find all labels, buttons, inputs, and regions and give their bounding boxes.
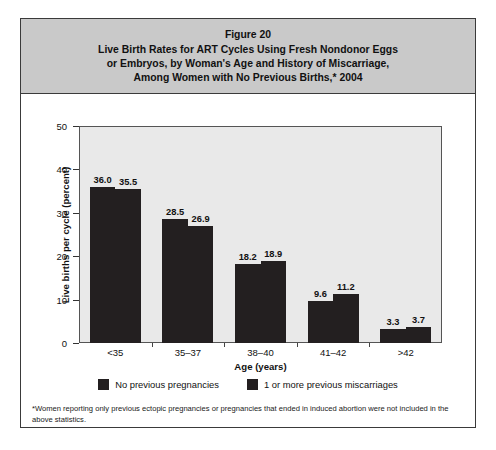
legend-label-0: No previous pregnancies	[115, 379, 219, 390]
bar-1-1: 26.9	[188, 126, 214, 343]
x-tick-label-3: 41–42	[293, 347, 373, 358]
bar-rect-0-1	[115, 189, 141, 343]
legend-label-1: 1 or more previous miscarriages	[264, 379, 398, 390]
bar-value-label-3-0: 9.6	[308, 289, 334, 299]
x-tick-label-1: 35–37	[148, 347, 228, 358]
y-axis: 01020304050	[21, 94, 79, 427]
bar-value-label-2-1: 18.9	[261, 249, 287, 259]
y-tick-label-50: 50	[45, 121, 67, 132]
bar-group-3: 9.611.2	[308, 126, 359, 343]
bar-value-label-1-1: 26.9	[188, 214, 214, 224]
bar-4-1: 3.7	[406, 126, 432, 343]
y-tick-label-40: 40	[45, 164, 67, 175]
figure-title-line-2: Live Birth Rates for ART Cycles Using Fr…	[98, 43, 398, 57]
bar-rect-4-1	[406, 327, 432, 343]
y-tick-label-10: 10	[45, 294, 67, 305]
chart-legend: No previous pregnancies 1 or more previo…	[21, 379, 475, 390]
bar-rect-2-1	[261, 261, 287, 343]
legend-item-1: 1 or more previous miscarriages	[247, 379, 398, 390]
bar-value-label-0-1: 35.5	[115, 177, 141, 187]
figure-title-band: Figure 20 Live Birth Rates for ART Cycle…	[21, 19, 475, 94]
bar-rect-1-0	[162, 219, 188, 343]
x-tick-label-2: 38–40	[221, 347, 301, 358]
bar-group-2: 18.218.9	[235, 126, 286, 343]
bar-rect-3-1	[333, 294, 359, 343]
bar-0-0: 36.0	[90, 126, 116, 343]
bar-rect-4-0	[380, 329, 406, 343]
bar-rect-3-0	[308, 301, 334, 343]
bar-rect-0-0	[90, 187, 116, 343]
y-tick-label-0: 0	[45, 338, 67, 349]
x-tick-label-4: >42	[366, 347, 446, 358]
figure-title-line-3: or Embryos, by Woman's Age and History o…	[107, 57, 390, 71]
figure-title-line-1: Figure 20	[225, 28, 271, 42]
bar-rect-2-0	[235, 264, 261, 343]
bar-value-label-3-1: 11.2	[333, 282, 359, 292]
bar-3-1: 11.2	[333, 126, 359, 343]
bar-rect-1-1	[188, 226, 214, 343]
legend-swatch-icon-1	[247, 379, 258, 390]
x-tick-label-0: <35	[75, 347, 155, 358]
chart-body: Live births per cycle (percent) 01020304…	[21, 94, 475, 427]
bar-2-1: 18.9	[261, 126, 287, 343]
bar-3-0: 9.6	[308, 126, 334, 343]
bar-value-label-1-0: 28.5	[162, 207, 188, 217]
bar-1-0: 28.5	[162, 126, 188, 343]
bar-value-label-4-1: 3.7	[406, 315, 432, 325]
bar-value-label-4-0: 3.3	[380, 317, 406, 327]
bar-value-label-0-0: 36.0	[90, 175, 116, 185]
figure-title-line-4: Among Women with No Previous Births,* 20…	[133, 71, 362, 85]
y-tick-mark-0	[73, 343, 79, 344]
figure-footnote: *Women reporting only previous ectopic p…	[32, 404, 464, 425]
y-tick-label-20: 20	[45, 251, 67, 262]
bar-value-label-2-0: 18.2	[235, 252, 261, 262]
legend-item-0: No previous pregnancies	[98, 379, 219, 390]
bar-group-0: 36.035.5	[90, 126, 141, 343]
y-tick-label-30: 30	[45, 207, 67, 218]
bar-4-0: 3.3	[380, 126, 406, 343]
x-axis-title: Age (years)	[79, 361, 442, 372]
bar-group-1: 28.526.9	[162, 126, 213, 343]
bar-2-0: 18.2	[235, 126, 261, 343]
bar-0-1: 35.5	[115, 126, 141, 343]
legend-swatch-icon-0	[98, 379, 109, 390]
figure-frame: Figure 20 Live Birth Rates for ART Cycle…	[20, 18, 476, 428]
bar-group-4: 3.33.7	[380, 126, 431, 343]
